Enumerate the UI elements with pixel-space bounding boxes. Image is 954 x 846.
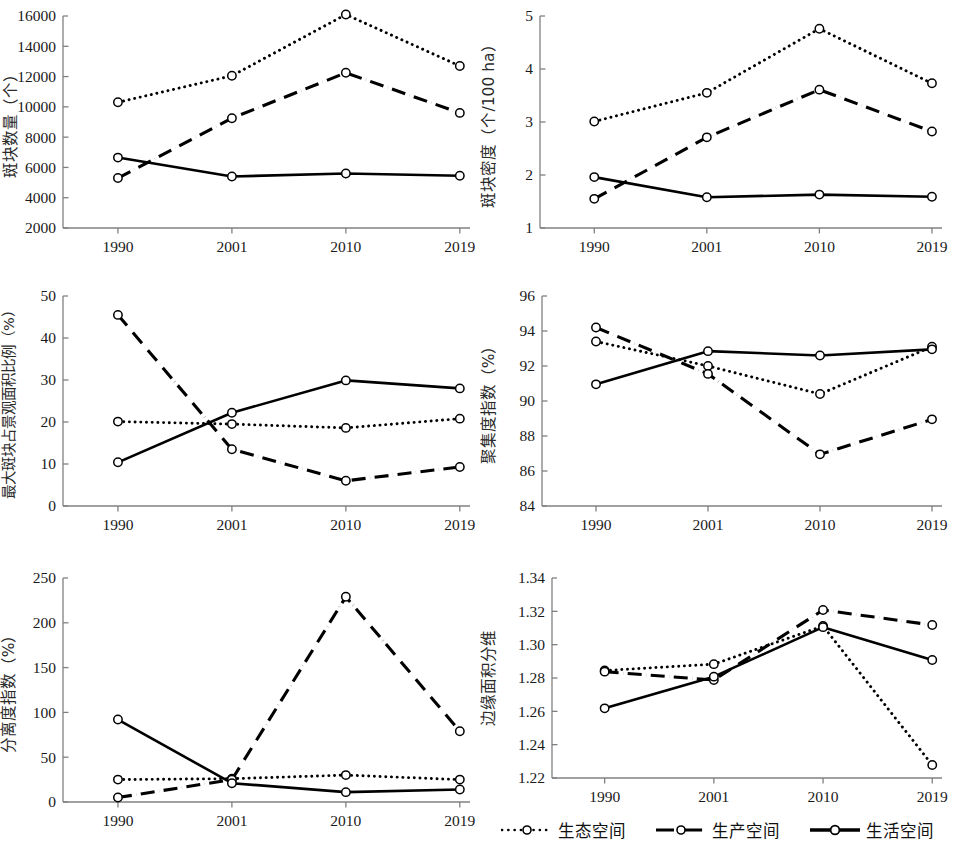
y-tick-label: 20 <box>41 413 57 430</box>
y-tick-label: 1.32 <box>518 603 545 620</box>
x-tick-label: 1990 <box>102 516 133 533</box>
y-tick-label: 90 <box>520 392 536 409</box>
series-line-dash-dot <box>118 597 460 798</box>
chart-svg-3: 848688909294961990200120102019聚集度指数（%） <box>480 280 954 560</box>
data-point-marker <box>710 660 718 668</box>
y-tick-label: 92 <box>520 357 536 374</box>
y-tick-label: 4000 <box>25 189 56 206</box>
data-point-marker <box>592 337 600 345</box>
data-point-marker <box>456 414 464 422</box>
legend-swatch-dotted-icon <box>501 823 553 837</box>
series-line-dotted <box>118 14 460 102</box>
y-tick-label: 12000 <box>17 68 56 85</box>
data-point-marker <box>342 771 350 779</box>
legend-swatch-dashdot-icon <box>655 823 707 837</box>
data-point-marker <box>704 370 712 378</box>
y-tick-label: 14000 <box>17 38 56 55</box>
chart-panel-aggregation-index: 848688909294961990200120102019聚集度指数（%） <box>480 280 954 560</box>
data-point-marker <box>928 621 936 629</box>
chart-svg-4: 0501001502002501990200120102019分离度指数（%） <box>0 560 480 846</box>
data-point-marker <box>228 72 236 80</box>
x-tick-label: 2010 <box>805 516 836 533</box>
data-point-marker <box>114 715 122 723</box>
y-tick-label: 1.28 <box>518 669 545 686</box>
legend-item-ecological[interactable]: 生态空间 <box>501 818 626 842</box>
x-tick-label: 2019 <box>444 812 475 829</box>
data-point-marker <box>815 190 823 198</box>
data-point-marker <box>456 172 464 180</box>
x-tick-label: 2010 <box>330 812 361 829</box>
y-axis-title: 最大斑块占景观面积比例（%） <box>1 303 17 499</box>
data-point-marker <box>928 415 936 423</box>
x-tick-label: 2019 <box>916 238 947 255</box>
legend: 生态空间 生产空间 生活空间 <box>480 816 954 844</box>
data-point-marker <box>456 62 464 70</box>
x-tick-label: 1990 <box>102 238 133 255</box>
data-point-marker <box>456 775 464 783</box>
y-axis-title: 斑块密度（个/100 ha） <box>480 36 498 207</box>
y-tick-label: 1.26 <box>518 703 545 720</box>
data-point-marker <box>114 311 122 319</box>
y-tick-label: 1.24 <box>518 736 545 753</box>
y-tick-label: 1.34 <box>518 569 545 586</box>
data-point-marker <box>228 420 236 428</box>
x-tick-label: 2001 <box>698 788 729 805</box>
chart-panel-perimeter-area-fractal: 1.221.241.261.281.301.321.34199020012010… <box>480 560 954 846</box>
data-point-marker <box>342 424 350 432</box>
x-tick-label: 1990 <box>581 516 612 533</box>
data-point-marker <box>928 193 936 201</box>
data-point-marker <box>815 25 823 33</box>
y-tick-label: 200 <box>33 614 57 631</box>
y-axis-title: 聚集度指数（%） <box>480 338 498 465</box>
x-tick-label: 1990 <box>589 788 620 805</box>
legend-item-production[interactable]: 生产空间 <box>655 818 780 842</box>
legend-item-living[interactable]: 生活空间 <box>809 818 934 842</box>
data-point-marker <box>342 10 350 18</box>
data-point-marker <box>342 376 350 384</box>
data-point-marker <box>456 384 464 392</box>
data-point-marker <box>342 593 350 601</box>
legend-label-production: 生产空间 <box>712 818 780 842</box>
series-line-dotted <box>605 626 933 765</box>
data-point-marker <box>114 775 122 783</box>
data-point-marker <box>228 445 236 453</box>
y-tick-label: 0 <box>48 497 56 514</box>
data-point-marker <box>228 409 236 417</box>
legend-label-living: 生活空间 <box>866 818 934 842</box>
y-tick-label: 88 <box>520 427 536 444</box>
chart-svg-1: 123451990200120102019斑块密度（个/100 ha） <box>480 0 954 280</box>
y-tick-label: 10000 <box>17 98 56 115</box>
data-point-marker <box>816 390 824 398</box>
data-point-marker <box>816 351 824 359</box>
data-point-marker <box>816 450 824 458</box>
figure-grid: 2000400060008000100001200014000160001990… <box>0 0 954 846</box>
data-point-marker <box>456 727 464 735</box>
data-point-marker <box>704 347 712 355</box>
y-tick-label: 8000 <box>25 129 56 146</box>
series-line-dotted <box>118 419 460 428</box>
data-point-marker <box>590 117 598 125</box>
y-tick-label: 30 <box>41 371 57 388</box>
y-tick-label: 16000 <box>17 7 56 24</box>
x-tick-label: 2019 <box>444 238 475 255</box>
y-tick-label: 40 <box>41 329 57 346</box>
data-point-marker <box>819 606 827 614</box>
data-point-marker <box>928 761 936 769</box>
data-point-marker <box>928 127 936 135</box>
data-point-marker <box>592 380 600 388</box>
data-point-marker <box>228 114 236 122</box>
chart-panel-patch-number: 2000400060008000100001200014000160001990… <box>0 0 480 280</box>
data-point-marker <box>114 458 122 466</box>
data-point-marker <box>228 779 236 787</box>
data-point-marker <box>703 133 711 141</box>
y-tick-label: 150 <box>33 659 57 676</box>
data-point-marker <box>592 323 600 331</box>
data-point-marker <box>228 172 236 180</box>
chart-svg-5: 1.221.241.261.281.301.321.34199020012010… <box>480 560 954 818</box>
series-line-solid <box>594 177 932 197</box>
chart-panel-largest-patch-index: 010203040501990200120102019最大斑块占景观面积比例（%… <box>0 280 480 560</box>
data-point-marker <box>114 153 122 161</box>
chart-svg-2: 010203040501990200120102019最大斑块占景观面积比例（%… <box>0 280 480 560</box>
legend-label-ecological: 生态空间 <box>558 818 626 842</box>
legend-swatch-solid-icon <box>809 823 861 837</box>
